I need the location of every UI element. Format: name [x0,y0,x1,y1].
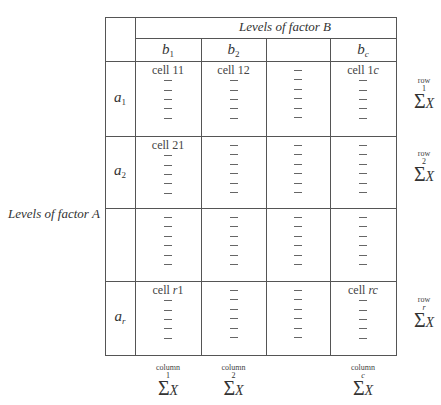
column-header-var: b [357,41,365,57]
sum-expression: ΣX [158,380,178,399]
dash-placeholder [230,183,238,184]
dash-placeholder [294,108,302,109]
sum-variable: X [426,96,435,111]
dash-placeholder [294,337,302,338]
dash-placeholder [164,90,172,91]
table-cell [266,139,330,197]
row-header-ar: ar [105,308,135,326]
dash-placeholder [359,226,367,227]
dash-placeholder [230,192,238,193]
dash-placeholder [294,98,302,99]
table-cell: cell rc [330,284,396,343]
column-header-sub: c [365,49,369,59]
dash-placeholder [294,79,302,80]
dash-placeholder [294,164,302,165]
dash-placeholder [294,318,302,319]
column-header-sub: 2 [235,49,240,59]
dash-placeholder [359,145,367,146]
dash-placeholder [164,155,172,156]
grid-line [105,17,106,356]
dash-placeholder [359,80,367,81]
dash-placeholder [294,173,302,174]
grid-line [105,208,397,209]
table-cell [330,211,396,269]
dash-placeholder [294,154,302,155]
column-sum-b1: column1ΣX [135,364,201,399]
dash-placeholder [359,319,367,320]
dash-placeholder [359,338,367,339]
column-sum-b2: column2ΣX [201,364,266,399]
dash-placeholder [294,290,302,291]
dash-placeholder [164,165,172,166]
dash-placeholder [294,226,302,227]
dash-placeholder [294,192,302,193]
column-sum-bc: columncΣX [330,364,396,399]
dash-placeholder [164,264,172,265]
dash-placeholder [164,245,172,246]
dash-placeholder [359,154,367,155]
factor-b-label: Levels of factor B [200,19,370,35]
dash-placeholder [164,118,172,119]
dash-placeholder [164,300,172,301]
dash-placeholder [164,319,172,320]
sum-variable: X [426,315,435,330]
dash-placeholder [294,217,302,218]
cell-label: cell rc [348,284,378,296]
column-header-var: b [228,41,236,57]
table-cell [201,211,266,269]
row-header-a2: a2 [105,162,135,180]
dash-placeholder [230,328,238,329]
sigma-symbol: Σ [414,90,426,112]
dash-placeholder [230,255,238,256]
dash-placeholder [230,226,238,227]
dash-placeholder [230,173,238,174]
dash-placeholder [359,217,367,218]
row-header-var: a [114,162,122,178]
sum-expression: ΣX [414,312,434,331]
grid-line [105,281,397,282]
dash-placeholder [359,310,367,311]
dash-placeholder [164,255,172,256]
grid-line [396,17,397,356]
sum-variable: X [365,383,374,398]
dash-placeholder [294,89,302,90]
table-cell: cell 1c [330,64,396,123]
row-sum-ar: rowrΣX [410,296,438,331]
dash-placeholder [230,245,238,246]
cell-label: cell r1 [153,284,184,296]
table-cell [201,139,266,197]
sigma-symbol: Σ [414,163,426,185]
dash-placeholder [359,192,367,193]
grid-line [105,17,397,18]
sigma-symbol: Σ [223,377,235,399]
row-header-var: a [114,308,122,324]
dash-placeholder [230,309,238,310]
sum-variable: X [426,169,435,184]
column-header-b1: b1 [135,41,201,59]
dash-placeholder [294,183,302,184]
dash-placeholder [164,174,172,175]
dash-placeholder [294,245,302,246]
dash-placeholder [230,154,238,155]
cell-label: cell 1c [347,64,379,76]
dash-placeholder [230,99,238,100]
dash-placeholder [230,217,238,218]
row-header-sub: 1 [122,97,127,107]
dash-placeholder [294,145,302,146]
factor-a-label: Levels of factor A [8,206,100,222]
dash-placeholder [230,118,238,119]
sum-expression: ΣX [353,380,373,399]
row-sum-a1: row1ΣX [410,77,438,112]
dash-placeholder [359,118,367,119]
dash-placeholder [359,90,367,91]
column-header-bc: bc [330,41,396,59]
dash-placeholder [230,145,238,146]
dash-placeholder [359,255,367,256]
sigma-symbol: Σ [353,377,365,399]
dash-placeholder [230,264,238,265]
table-cell [330,139,396,197]
dash-placeholder [230,337,238,338]
dash-placeholder [230,90,238,91]
table-cell: cell r1 [135,284,201,343]
dash-placeholder [164,80,172,81]
